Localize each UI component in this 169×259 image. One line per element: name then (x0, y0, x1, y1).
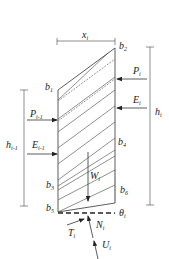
label-W-i: Wi (90, 170, 100, 182)
label-h-im1: hi-1 (6, 139, 18, 151)
label-x-i: xi (81, 29, 88, 41)
slice-block (58, 48, 115, 212)
height-right-dimension (146, 47, 154, 205)
label-b5: b5 (46, 202, 54, 214)
force-T-i-arrow (67, 219, 84, 225)
slice-force-diagram: xi b2 b1 b4 b3 b6 b5 Pi Ei hi Pi-1 Ei-1 … (0, 0, 169, 259)
height-left-dimension (20, 90, 28, 206)
label-P-im1: Pi-1 (29, 108, 43, 120)
force-U-i-arrow (94, 241, 98, 259)
label-b1: b1 (45, 81, 53, 93)
label-b4: b4 (118, 136, 126, 148)
label-N-i: Ni (95, 219, 105, 231)
label-P-i: Pi (132, 65, 141, 77)
label-b2: b2 (119, 40, 127, 52)
label-E-i: Ei (132, 94, 141, 106)
force-N-i-arrow (88, 216, 93, 238)
label-T-i: Ti (68, 227, 76, 239)
label-b3: b3 (46, 179, 54, 191)
label-theta-i: θi (119, 207, 126, 219)
label-E-im1: Ei-1 (31, 139, 45, 151)
label-h-i: hi (155, 106, 162, 118)
label-U-i: Ui (102, 239, 111, 251)
label-b6: b6 (120, 184, 128, 196)
